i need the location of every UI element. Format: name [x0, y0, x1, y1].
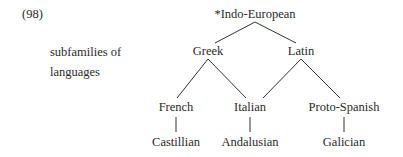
label-line-1: subfamilies of: [50, 46, 121, 59]
node-indo-european: *Indo-European: [214, 8, 295, 21]
node-italian: Italian: [234, 101, 266, 114]
node-galician: Galician: [323, 136, 365, 149]
label-line-2: languages: [50, 66, 100, 79]
node-french: French: [159, 101, 194, 114]
example-number: (98): [22, 8, 43, 21]
node-castillian: Castillian: [152, 136, 200, 149]
node-andalusian: Andalusian: [222, 136, 279, 149]
node-latin: Latin: [288, 45, 314, 58]
node-greek: Greek: [193, 45, 224, 58]
node-proto-spanish: Proto-Spanish: [309, 101, 380, 114]
